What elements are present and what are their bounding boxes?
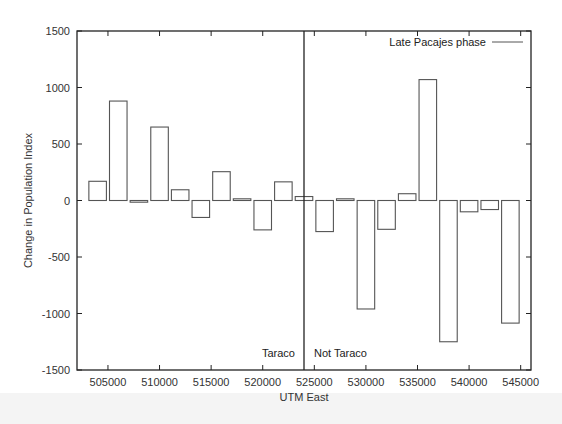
- annotation-taraco: Taraco: [262, 347, 295, 359]
- bar: [275, 182, 293, 201]
- bar: [254, 201, 272, 230]
- bar: [337, 199, 355, 201]
- x-tick-label: 505000: [90, 376, 127, 388]
- y-axis-title: Change in Population Index: [22, 132, 34, 268]
- bar: [398, 194, 416, 201]
- x-axis-title: UTM East: [280, 391, 329, 403]
- bar: [419, 80, 437, 201]
- bar: [171, 190, 189, 201]
- y-tick-label: 1500: [46, 25, 70, 37]
- y-tick-label: 0: [64, 195, 70, 207]
- x-tick-label: 545000: [502, 376, 539, 388]
- y-tick-label: -1000: [42, 308, 70, 320]
- bar: [316, 201, 334, 232]
- bar: [130, 201, 148, 203]
- x-tick-label: 515000: [193, 376, 230, 388]
- y-tick-label: -1500: [42, 364, 70, 376]
- y-tick-label: -500: [48, 251, 70, 263]
- bar: [440, 201, 458, 342]
- y-tick-label: 1000: [46, 82, 70, 94]
- x-tick-label: 535000: [399, 376, 436, 388]
- legend-label: Late Pacajes phase: [389, 36, 486, 48]
- bar: [151, 127, 169, 200]
- bar: [89, 181, 107, 200]
- bar: [192, 201, 210, 218]
- chart: 5050005100005150005200005250005300005350…: [0, 0, 562, 424]
- x-tick-label: 525000: [296, 376, 333, 388]
- legend: Late Pacajes phase: [389, 36, 523, 48]
- annotation-not-taraco: Not Taraco: [314, 347, 367, 359]
- x-tick-label: 510000: [141, 376, 178, 388]
- bar: [233, 199, 251, 201]
- bar: [481, 201, 499, 210]
- bar: [378, 201, 396, 230]
- bar: [357, 201, 375, 309]
- x-tick-label: 520000: [244, 376, 281, 388]
- x-tick-label: 540000: [451, 376, 488, 388]
- bar: [502, 201, 520, 324]
- y-tick-label: 500: [52, 138, 70, 150]
- bar: [110, 101, 128, 200]
- x-tick-label: 530000: [348, 376, 385, 388]
- bar: [213, 172, 231, 201]
- bar: [460, 201, 478, 212]
